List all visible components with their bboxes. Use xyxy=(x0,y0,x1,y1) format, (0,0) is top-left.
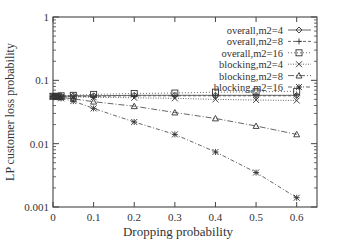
star-marker xyxy=(294,195,300,201)
series-line xyxy=(53,96,297,197)
star-marker xyxy=(50,93,56,99)
y-axis-label: LP customer loss probability xyxy=(3,43,17,181)
x-tick-label: 0.3 xyxy=(168,211,182,223)
x-tick-label: 0.4 xyxy=(209,211,223,223)
chart: 00.10.20.30.40.50.60.0010.010.11 overall… xyxy=(0,0,339,248)
y-tick-label: 0.01 xyxy=(30,138,49,150)
y-tick-label: 1 xyxy=(44,11,50,23)
star-marker xyxy=(91,105,97,111)
x-tick-label: 0 xyxy=(50,211,56,223)
legend-label: overall,m2=8 xyxy=(227,36,283,47)
star-marker xyxy=(172,131,178,137)
legend-label: overall,m2=4 xyxy=(227,25,284,36)
star-marker xyxy=(54,94,60,100)
legend-label: blocking,m2=4 xyxy=(219,59,284,70)
x-tick-label: 0.6 xyxy=(290,211,304,223)
x-tick-label: 0.1 xyxy=(87,211,101,223)
x-axis-label: Dropping probability xyxy=(123,224,234,239)
triangle-marker xyxy=(212,115,218,120)
x-tick-label: 0.5 xyxy=(249,211,263,223)
y-tick-label: 0.1 xyxy=(35,74,49,86)
plus-marker xyxy=(296,38,302,44)
star-marker xyxy=(212,149,218,155)
star-marker xyxy=(253,170,259,176)
y-tick-label: 0.001 xyxy=(24,201,49,213)
legend-label: overall,m2=16 xyxy=(221,48,283,59)
legend-label: blocking,m2=8 xyxy=(219,71,283,82)
star-marker xyxy=(70,98,76,104)
square-marker xyxy=(296,50,302,56)
data-series xyxy=(50,88,300,200)
series-blocking-m2-8 xyxy=(50,93,300,137)
legend-label: blocking,m2=16 xyxy=(214,82,283,93)
star-marker xyxy=(131,119,137,125)
star-marker xyxy=(58,95,64,101)
star-marker xyxy=(296,84,302,90)
legend: overall,m2=4overall,m2=8overall,m2=16blo… xyxy=(214,25,311,93)
x-tick-label: 0.2 xyxy=(127,211,141,223)
